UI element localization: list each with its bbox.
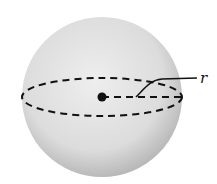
radius-label: r [200, 69, 208, 87]
sphere-diagram: r [0, 0, 217, 184]
center-point [98, 93, 107, 102]
